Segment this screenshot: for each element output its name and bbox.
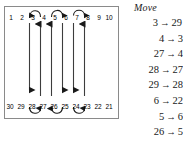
move-list-panel: Move 3→29 4→3 27→4 28→27 29→28 6→22 5→6 (122, 0, 183, 143)
cell-bottom-21: 21 (102, 103, 116, 110)
cell-top-10: 10 (102, 14, 116, 21)
move-target: 27 (173, 62, 184, 78)
arrow-right-icon: → (159, 65, 173, 75)
arrow-right-icon: → (164, 34, 178, 44)
move-row: 5→6 (122, 109, 183, 125)
move-target: 29 (172, 15, 183, 31)
move-source: 26 (148, 124, 164, 140)
move-row: 27→4 (122, 46, 183, 62)
move-source: 6 (143, 93, 159, 109)
move-row: 4→3 (122, 31, 183, 47)
move-source: 5 (148, 109, 164, 125)
move-row: 28→27 (122, 62, 183, 78)
move-list: 3→29 4→3 27→4 28→27 29→28 6→22 5→6 26→5 (122, 15, 183, 140)
move-target: 6 (178, 109, 183, 125)
move-target: 28 (173, 77, 184, 93)
move-target: 4 (178, 46, 183, 62)
move-source: 27 (148, 46, 164, 62)
move-row: 26→5 (122, 124, 183, 140)
arrow-right-icon: → (159, 96, 173, 106)
move-target: 22 (173, 93, 184, 109)
move-source: 29 (143, 77, 159, 93)
move-row: 6→22 (122, 93, 183, 109)
move-source: 3 (142, 15, 158, 31)
arrow-right-icon: → (164, 112, 178, 122)
move-row: 3→29 (122, 15, 183, 31)
arrow-right-icon: → (158, 18, 172, 28)
arrow-layer (5, 7, 118, 118)
move-source: 28 (143, 62, 159, 78)
arrow-right-icon: → (159, 80, 173, 90)
move-row: 29→28 (122, 77, 183, 93)
arrow-right-icon: → (164, 127, 178, 137)
move-target: 3 (178, 31, 183, 47)
move-target: 5 (178, 124, 183, 140)
permutation-diagram: 1 2 3 4 5 6 7 8 9 10 30 29 28 27 26 25 2… (4, 6, 119, 119)
move-source: 4 (148, 31, 164, 47)
arrow-right-icon: → (164, 49, 178, 59)
diagram-root: 1 2 3 4 5 6 7 8 9 10 30 29 28 27 26 25 2… (0, 0, 183, 143)
move-list-title: Move (134, 2, 157, 13)
